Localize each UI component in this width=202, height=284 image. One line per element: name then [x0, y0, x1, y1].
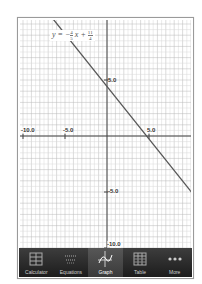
x-label-neg10: -10.0	[21, 127, 35, 134]
tab-equations[interactable]: Equations	[54, 248, 89, 277]
graph-grid	[20, 20, 191, 248]
intercept-fraction: 114	[88, 30, 93, 41]
tab-calculator[interactable]: Calculator	[19, 248, 54, 277]
graph-canvas[interactable]: y = −45 x + 114 -10.0 -5.0 5.0 5.0 -5.0 …	[20, 20, 191, 248]
equation-label: y = −45 x + 114	[50, 30, 95, 41]
slope-fraction: 45	[70, 30, 73, 41]
tab-more[interactable]: More	[157, 248, 192, 277]
equations-icon	[63, 251, 79, 267]
more-icon	[167, 251, 183, 267]
tab-graph[interactable]: Graph	[88, 248, 123, 277]
y-label-5: 5.0	[108, 77, 116, 84]
calculator-icon	[28, 251, 44, 267]
y-label-neg5: -5.0	[108, 188, 118, 195]
x-label-neg5: -5.0	[63, 127, 73, 134]
device-frame: y = −45 x + 114 -10.0 -5.0 5.0 5.0 -5.0 …	[17, 17, 194, 279]
tab-bar: Calculator Equations Graph Table More	[19, 248, 192, 277]
graph-icon	[97, 251, 113, 267]
y-label-neg10: -10.0	[107, 241, 121, 248]
x-label-5: 5.0	[147, 127, 155, 134]
table-icon	[132, 251, 148, 267]
tab-table[interactable]: Table	[123, 248, 158, 277]
